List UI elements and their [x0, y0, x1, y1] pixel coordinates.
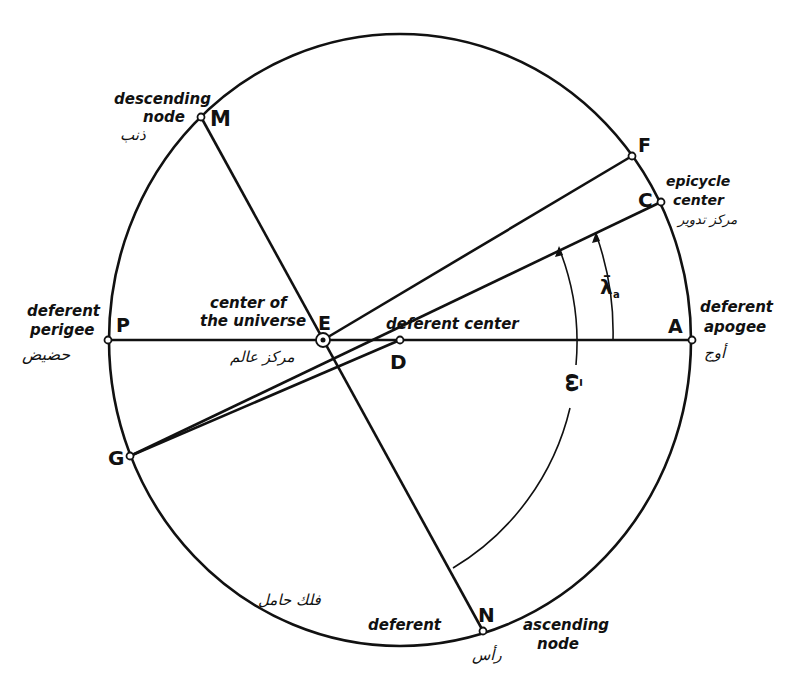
point-E-marker-inner — [321, 338, 326, 343]
point-G-marker — [127, 453, 134, 460]
point-G-letter: G — [108, 446, 124, 470]
deferent-arabic: فلك حامل — [258, 591, 322, 609]
ascending-node-arabic: رأس — [472, 645, 502, 664]
omega-angle-arc-lower — [453, 408, 570, 568]
lambda-subscript: a — [613, 289, 620, 300]
deferent-center-label: deferent center — [386, 315, 520, 333]
center-of-universe-label-1: center of — [210, 294, 289, 312]
deferent-label: deferent — [368, 616, 442, 634]
descending-node-label-2: node — [143, 108, 185, 126]
point-P-letter: P — [116, 314, 130, 336]
point-E-letter: E — [318, 312, 331, 334]
point-D-marker — [397, 337, 404, 344]
deferent-diagram: M F C P E D A G N descending node ذنب ep… — [0, 0, 802, 686]
point-A-letter: A — [668, 315, 683, 337]
deferent-perigee-label-2: perigee — [29, 321, 95, 339]
point-M-marker — [198, 114, 205, 121]
deferent-apogee-label-2: apogee — [704, 318, 766, 336]
deferent-perigee-arabic: حضيض — [22, 345, 70, 364]
ascending-node-label-1: ascending — [523, 616, 609, 634]
omega-symbol: ω̄ — [561, 373, 586, 392]
deferent-apogee-label-1: deferent — [700, 298, 774, 316]
point-N-marker — [480, 628, 487, 635]
point-C-letter: C — [638, 188, 653, 212]
epicycle-center-arabic: مركز تدوير — [676, 212, 737, 228]
descending-node-arabic: ذنب — [120, 126, 146, 144]
descending-node-label-1: descending — [114, 90, 211, 108]
ascending-node-label-2: node — [537, 635, 579, 653]
epicycle-center-label-2: center — [673, 192, 725, 208]
omega-angle-arc — [559, 248, 577, 365]
center-of-universe-label-2: the universe — [200, 312, 306, 330]
point-C-marker — [658, 199, 665, 206]
point-D-letter: D — [390, 350, 407, 374]
point-A-marker — [689, 337, 696, 344]
lambda-symbol: λ̄ — [600, 275, 613, 299]
point-M-letter: M — [210, 107, 231, 131]
center-of-universe-arabic: مركز عالم — [230, 348, 295, 366]
line-E-F — [323, 156, 632, 340]
epicycle-center-label-1: epicycle — [666, 173, 730, 189]
point-N-letter: N — [478, 603, 495, 627]
point-F-letter: F — [638, 134, 651, 156]
point-P-marker — [105, 337, 112, 344]
deferent-perigee-label-1: deferent — [27, 302, 101, 320]
point-F-marker — [629, 153, 636, 160]
nodal-line — [201, 117, 483, 631]
deferent-apogee-arabic: أوج — [704, 343, 728, 362]
